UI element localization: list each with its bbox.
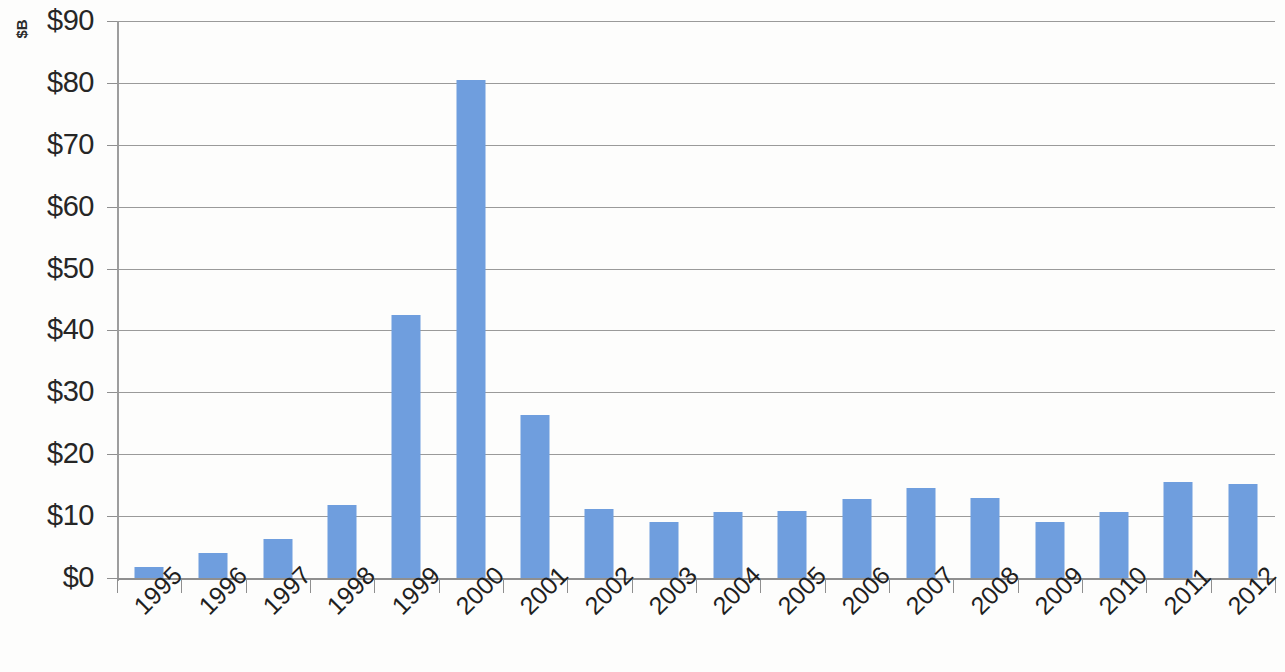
y-axis-tick-label: $30 — [2, 377, 94, 406]
bar[interactable] — [1164, 482, 1193, 578]
bar-slot — [1018, 21, 1082, 578]
bar-slot — [246, 21, 310, 578]
y-axis-tick-label: $50 — [2, 254, 94, 283]
bar-slot — [374, 21, 438, 578]
y-axis-tick-label: $60 — [2, 192, 94, 221]
y-axis-tick-label: $40 — [2, 315, 94, 344]
y-axis-tick-label: $0 — [2, 563, 94, 592]
bar[interactable] — [971, 498, 1000, 578]
bars-layer — [117, 21, 1275, 578]
bar-slot — [953, 21, 1017, 578]
bar[interactable] — [1228, 484, 1257, 578]
y-axis-tick-label: $20 — [2, 439, 94, 468]
bar[interactable] — [907, 488, 936, 578]
bar[interactable] — [456, 80, 485, 578]
x-axis-labels: 1995199619971998199920002001200220032004… — [117, 578, 1275, 672]
y-axis-tick-label: $10 — [2, 501, 94, 530]
bar-slot — [439, 21, 503, 578]
bar[interactable] — [392, 315, 421, 578]
bar-chart: $B $0$10$20$30$40$50$60$70$80$90 1995199… — [0, 0, 1285, 672]
bar-slot — [1146, 21, 1210, 578]
bar-slot — [567, 21, 631, 578]
bar-slot — [117, 21, 181, 578]
bar-slot — [889, 21, 953, 578]
bar-slot — [825, 21, 889, 578]
bar-slot — [1211, 21, 1275, 578]
y-axis-tick-label: $80 — [2, 68, 94, 97]
bar[interactable] — [521, 415, 550, 578]
bar-slot — [181, 21, 245, 578]
y-axis-tick-label: $90 — [2, 6, 94, 35]
bar-slot — [760, 21, 824, 578]
plot-area — [117, 21, 1275, 578]
y-axis-tick-label: $70 — [2, 130, 94, 159]
bar-slot — [503, 21, 567, 578]
bar-slot — [310, 21, 374, 578]
bar[interactable] — [842, 499, 871, 578]
bar-slot — [632, 21, 696, 578]
bar-slot — [1082, 21, 1146, 578]
bar-slot — [696, 21, 760, 578]
